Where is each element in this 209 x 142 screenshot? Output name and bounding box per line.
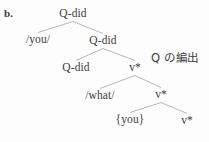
tree-node-qdid2: Q-did: [89, 35, 116, 47]
tree-branches: [0, 0, 209, 142]
syntax-tree-figure: b. Q-did/you/Q-didQ-didv*/what/v*{you}v*…: [0, 0, 209, 142]
branch-vstar1-to-vstar2: [135, 76, 161, 88]
branch-vstar2-to-you-set: [130, 103, 161, 113]
branch-vstar2-to-vstar3: [161, 103, 187, 114]
tree-node-vstar1: v*: [129, 62, 141, 74]
branch-qdid2-to-qdid3: [76, 49, 103, 61]
tree-node-qdid3: Q-did: [62, 62, 89, 74]
branch-root-to-qdid2: [73, 22, 103, 34]
tree-node-what-ph: /what/: [85, 90, 114, 102]
tree-node-vstar2: v*: [155, 89, 167, 101]
tree-node-vstar3: v*: [181, 115, 193, 127]
annotation-text: Q の編出: [151, 49, 198, 65]
tree-node-you-set: {you}: [116, 114, 145, 126]
branch-root-to-you-ph: [38, 22, 73, 33]
tree-node-you-ph: /you/: [26, 34, 50, 46]
branch-qdid2-to-vstar1: [103, 49, 135, 61]
branch-vstar1-to-what-ph: [100, 76, 135, 89]
tree-node-root: Q-did: [59, 8, 86, 20]
